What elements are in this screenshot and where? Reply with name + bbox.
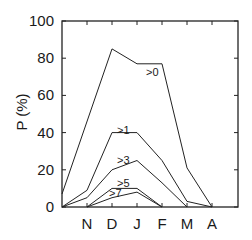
x-tick-label: M: [181, 215, 194, 232]
line-chart: 020406080100 NDJFMA >0>1>3>5>7 P (%): [0, 0, 252, 240]
series-label: >0: [146, 66, 159, 78]
series-line: [62, 49, 212, 207]
y-tick-label: 20: [37, 161, 54, 178]
y-tick-label: 40: [37, 124, 54, 141]
series-label: >7: [109, 187, 122, 199]
y-tick-label: 100: [29, 12, 54, 29]
y-tick-label: 80: [37, 49, 54, 66]
series-label: >1: [117, 124, 130, 136]
series-group: [62, 49, 212, 207]
y-tick-label: 0: [46, 198, 54, 215]
x-tick-label: N: [82, 215, 93, 232]
y-tick-label: 60: [37, 86, 54, 103]
y-axis-label: P (%): [13, 93, 30, 130]
series-label: >3: [117, 154, 130, 166]
x-tick-label: J: [133, 215, 141, 232]
series-line: [87, 188, 162, 207]
plot-frame: [62, 21, 238, 207]
x-tick-label: D: [107, 215, 118, 232]
x-tick-label: F: [157, 215, 166, 232]
plot-border: [62, 21, 238, 207]
series-line: [87, 192, 162, 207]
x-tick-label: A: [207, 215, 217, 232]
y-axis: 020406080100: [29, 12, 238, 215]
series-line: [62, 133, 212, 207]
x-axis: NDJFMA: [82, 21, 217, 232]
